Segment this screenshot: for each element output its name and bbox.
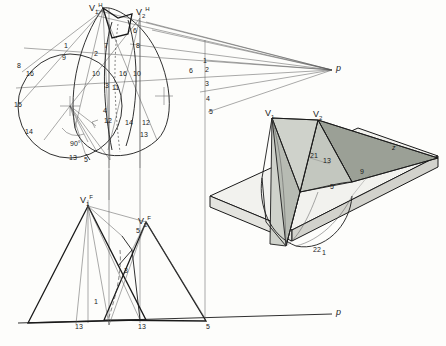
- label-num-22-pic: 22: [313, 246, 321, 253]
- label-num-4-c: 4: [206, 95, 210, 102]
- label-num-12-b: 12: [142, 119, 150, 126]
- label-p-right: p: [336, 64, 341, 73]
- label-num-8-b: 8: [136, 42, 140, 49]
- label-apex-v1f: V1F: [80, 194, 93, 207]
- label-num-12-a: 12: [104, 117, 112, 124]
- label-apex-v2-pictorial: V2: [313, 110, 322, 121]
- label-num-5-b: 5: [209, 108, 213, 115]
- label-num-10-b: 10: [133, 70, 141, 77]
- label-num-13-a: 13: [69, 154, 77, 161]
- label-num-3-f: 3: [124, 267, 128, 274]
- diagram-canvas: .s{stroke:#1a1a1a;fill:none;stroke-width…: [0, 0, 446, 346]
- label-num-21-pic: 21: [310, 152, 318, 159]
- label-apex-v1h: V1H: [89, 2, 103, 15]
- label-num-5-f: 5: [206, 323, 210, 330]
- label-num-13-pic: 13: [323, 157, 331, 164]
- label-num-14-b: 14: [125, 119, 133, 126]
- label-num-13-f-right: 13: [138, 323, 146, 330]
- label-num-15-a: 15: [14, 101, 22, 108]
- label-num-13-f-left: 13: [75, 323, 83, 330]
- label-angle-90: 90°: [70, 140, 81, 147]
- label-apex-v1-pictorial: V1: [265, 109, 274, 120]
- label-p-bottom: p: [336, 308, 341, 317]
- label-num-1-c: 1: [203, 57, 207, 64]
- label-num-8-a: 8: [17, 62, 21, 69]
- label-num-5-pic2: 5: [330, 183, 334, 190]
- label-num-1-a: 1: [64, 42, 68, 49]
- label-num-9-pic: 9: [360, 168, 364, 175]
- label-num-5-a: 5: [84, 156, 88, 163]
- label-num-1-pic: 1: [322, 249, 326, 256]
- label-num-14-a: 14: [25, 128, 33, 135]
- label-num-7-a: 7: [104, 42, 108, 49]
- label-num-3-a: 3: [105, 82, 109, 89]
- label-num-13-b: 13: [140, 131, 148, 138]
- label-num-5-pic: 5: [136, 227, 140, 234]
- label-num-10-a: 10: [92, 70, 100, 77]
- label-num-2-a: 2: [94, 50, 98, 57]
- label-num-3-c: 3: [205, 80, 209, 87]
- label-num-1-f: 1: [94, 298, 98, 305]
- label-z-pic: z: [392, 144, 396, 151]
- label-num-6-b: 6: [133, 27, 137, 34]
- geometry-drawing: .s{stroke:#1a1a1a;fill:none;stroke-width…: [0, 0, 446, 346]
- label-num-2-c: 2: [205, 66, 209, 73]
- label-apex-v2h: V2H: [136, 6, 150, 19]
- label-num-11-a: 11: [112, 84, 119, 91]
- label-num-16-a: 16: [26, 70, 34, 77]
- label-num-16-b: 16: [119, 70, 127, 77]
- pictorial-view: [210, 118, 438, 247]
- label-num-6-c: 6: [189, 67, 193, 74]
- label-apex-v2f: V2F: [138, 215, 151, 228]
- label-num-9-a: 9: [62, 54, 66, 61]
- label-num-4-a: 4: [103, 107, 107, 114]
